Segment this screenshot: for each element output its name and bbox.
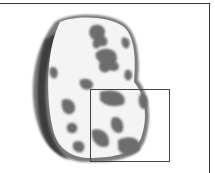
slice-illustration bbox=[0, 0, 215, 173]
